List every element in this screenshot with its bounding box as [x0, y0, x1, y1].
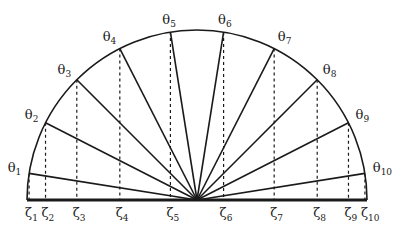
- theta-label-3: θ3: [58, 62, 72, 79]
- zeta-label-6: ζ6: [220, 205, 233, 223]
- chebyshev-semicircle-diagram: θ1θ2θ3θ4θ5θ6θ7θ8θ9θ10 ζ1ζ2ζ3ζ4ζ5ζ6ζ7ζ8ζ9…: [0, 0, 401, 234]
- zeta-labels: ζ1ζ2ζ3ζ4ζ5ζ6ζ7ζ8ζ9ζ10: [25, 205, 380, 223]
- radial-lines: [29, 32, 365, 200]
- theta-labels: θ1θ2θ3θ4θ5θ6θ7θ8θ9θ10: [8, 12, 393, 177]
- zeta-label-1: ζ1: [25, 205, 38, 223]
- radius-8: [197, 80, 317, 200]
- arc-path: [27, 30, 367, 200]
- theta-label-2: θ2: [25, 107, 39, 124]
- theta-label-4: θ4: [103, 29, 117, 46]
- semicircle-arc: [27, 30, 367, 200]
- zeta-label-7: ζ7: [270, 205, 283, 223]
- theta-label-9: θ9: [356, 107, 370, 124]
- theta-label-7: θ7: [278, 29, 292, 46]
- radius-3: [77, 80, 197, 200]
- theta-label-8: θ8: [323, 62, 337, 79]
- theta-label-1: θ1: [8, 160, 22, 177]
- zeta-label-2: ζ2: [42, 205, 55, 223]
- zeta-label-3: ζ3: [73, 205, 86, 223]
- theta-label-6: θ6: [218, 12, 232, 29]
- theta-label-10: θ10: [373, 160, 393, 177]
- theta-label-5: θ5: [162, 12, 176, 29]
- zeta-label-10: ζ10: [361, 205, 380, 223]
- zeta-label-4: ζ4: [116, 205, 129, 223]
- projection-dashed-lines: [29, 32, 365, 200]
- zeta-label-9: ζ9: [344, 205, 357, 223]
- zeta-label-8: ζ8: [313, 205, 326, 223]
- zeta-label-5: ζ5: [166, 205, 179, 223]
